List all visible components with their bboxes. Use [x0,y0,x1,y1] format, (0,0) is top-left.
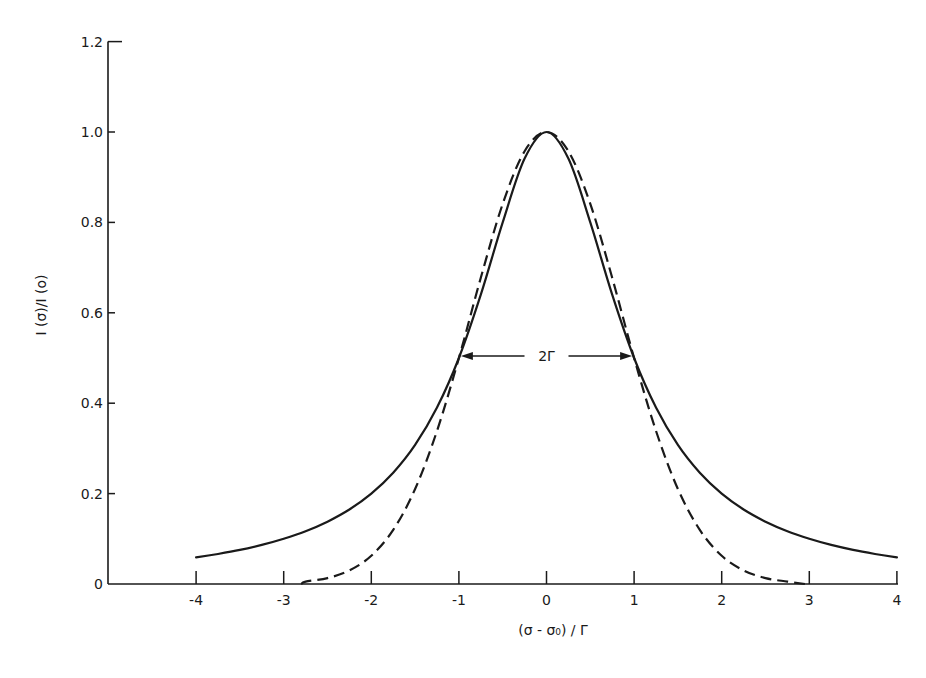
y-tick-label: 0 [94,576,103,592]
axes [108,42,898,584]
x-tick-label: -4 [189,592,203,608]
x-axis-label: (σ - σ₀) / Γ [518,622,588,638]
fwhm-annotation: 2Γ [461,348,632,364]
y-tick-label: 1.0 [81,124,103,140]
lorentzian-solid-curve [196,132,897,557]
y-axis-label: I (σ)/I (o) [33,274,49,335]
y-axis-ticks: 00.20.40.60.81.01.2 [81,34,122,592]
arrowhead-right-icon [620,352,632,360]
x-tick-label: 4 [892,592,901,608]
x-tick-label: -3 [277,592,291,608]
x-tick-label: 2 [717,592,726,608]
y-tick-label: 0.6 [81,305,103,321]
line-profile-chart: 00.20.40.60.81.01.2 -4-3-2-101234 2Γ I (… [0,0,926,678]
y-tick-label: 0.2 [81,486,103,502]
x-tick-label: -1 [452,592,466,608]
x-tick-label: -2 [364,592,378,608]
x-tick-label: 1 [630,592,639,608]
x-tick-label: 0 [542,592,551,608]
fwhm-label: 2Γ [538,348,555,364]
y-tick-label: 0.8 [81,214,103,230]
x-axis-ticks: -4-3-2-101234 [189,571,901,608]
x-tick-label: 3 [805,592,814,608]
y-tick-label: 1.2 [81,34,103,50]
y-tick-label: 0.4 [81,395,103,411]
arrowhead-left-icon [461,352,473,360]
